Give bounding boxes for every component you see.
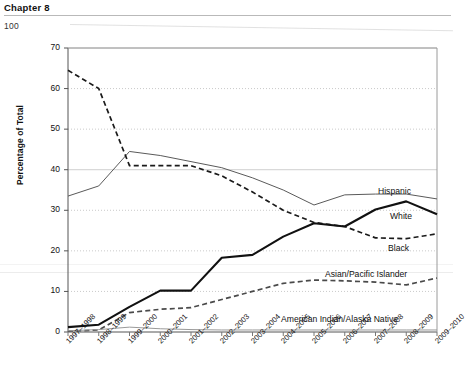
y-tick-label: 20 [36,245,60,255]
series-line [68,201,437,327]
y-tick-label: 30 [36,204,60,214]
series-label: American Indian/Alaska Native [281,314,398,324]
y-axis-title: Percentage of Total [15,65,25,225]
series-label: Hispanic [378,186,411,196]
y-tick-label: 40 [36,164,60,174]
y-tick-label: 70 [36,42,60,52]
series-label: Black [388,243,409,253]
series-line [68,70,437,238]
series-line [68,151,437,205]
series-label: Asian/Pacific Islander [325,269,407,279]
y-tick-label: 10 [36,285,60,295]
y-tick-label: 0 [36,326,60,336]
series-label: White [390,211,412,221]
y-tick-label: 50 [36,123,60,133]
y-tick-label: 60 [36,83,60,93]
